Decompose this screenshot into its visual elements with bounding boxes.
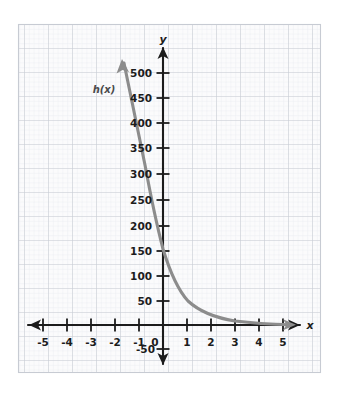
y-tick-label: 250 <box>130 194 152 206</box>
x-tick-label: -4 <box>61 336 73 348</box>
x-tick-label: 5 <box>279 336 286 348</box>
graph-figure: -5 -4 -3 -2 -1 0 1 2 3 4 5 500 450 400 3… <box>0 0 341 398</box>
y-tick-label: 150 <box>130 245 152 257</box>
x-tick-label: -2 <box>109 336 121 348</box>
y-tick-label-negative: -50 <box>136 343 155 355</box>
graph-paper-background <box>19 25 321 373</box>
y-axis-label: y <box>159 33 167 46</box>
x-tick-label: 3 <box>231 336 238 348</box>
x-tick-label: -5 <box>37 336 49 348</box>
y-tick-label: 500 <box>130 67 152 79</box>
graph-canvas: -5 -4 -3 -2 -1 0 1 2 3 4 5 500 450 400 3… <box>0 0 341 398</box>
curve-label-h-of-x: h(x) <box>93 84 116 95</box>
x-tick-label: 1 <box>183 336 190 348</box>
x-axis-label: x <box>305 319 314 332</box>
x-tick-label: -3 <box>85 336 97 348</box>
y-tick-label: 100 <box>130 270 152 282</box>
y-tick-label: 400 <box>130 117 152 129</box>
y-tick-label: 350 <box>130 142 152 154</box>
y-tick-label: 50 <box>137 295 152 307</box>
y-tick-label: 450 <box>130 92 152 104</box>
y-tick-label: 200 <box>130 220 152 232</box>
y-tick-label: 300 <box>130 168 152 180</box>
x-tick-label: 2 <box>207 336 214 348</box>
x-tick-label: 4 <box>255 336 262 348</box>
